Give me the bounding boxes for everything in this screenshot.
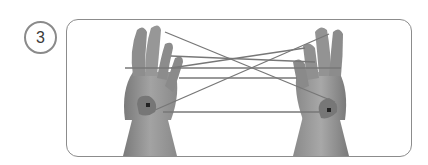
hands-string-figure-image [67, 20, 411, 156]
left-hand [123, 25, 183, 156]
step-number: 3 [36, 30, 45, 46]
step-number-badge: 3 [24, 21, 57, 54]
illustration-panel [66, 19, 412, 157]
